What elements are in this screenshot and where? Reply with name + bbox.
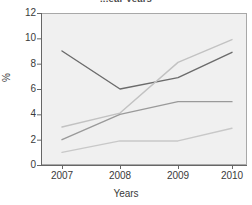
line-chart: ...ear years % 024681012 200720082009201…: [0, 0, 252, 205]
x-tick-label: 2008: [109, 170, 131, 181]
x-axis-title: Years: [0, 188, 252, 199]
x-tick-label: 2010: [221, 170, 243, 181]
x-tick-label: 2007: [51, 170, 73, 181]
x-tick-label: 2009: [167, 170, 189, 181]
plot-background: [41, 13, 247, 165]
x-axis-tick-labels: 2007200820092010: [0, 170, 252, 184]
